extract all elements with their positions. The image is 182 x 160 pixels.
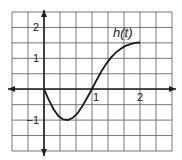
y-tick-label: 2 xyxy=(33,21,39,33)
y-tick-label: 1 xyxy=(33,52,39,64)
x-tick-label: 1 xyxy=(93,91,99,103)
y-tick-label: −1 xyxy=(26,114,39,126)
x-tick-label: 2 xyxy=(137,91,143,103)
function-label: h(t) xyxy=(113,25,133,40)
x-axis-right-arrow-icon xyxy=(169,86,176,92)
x-axis-left-arrow-icon xyxy=(8,86,15,92)
function-graph: 1221−1 h(t) xyxy=(0,0,182,160)
y-axis-up-arrow-icon xyxy=(41,10,47,17)
y-axis-down-arrow-icon xyxy=(41,149,47,156)
